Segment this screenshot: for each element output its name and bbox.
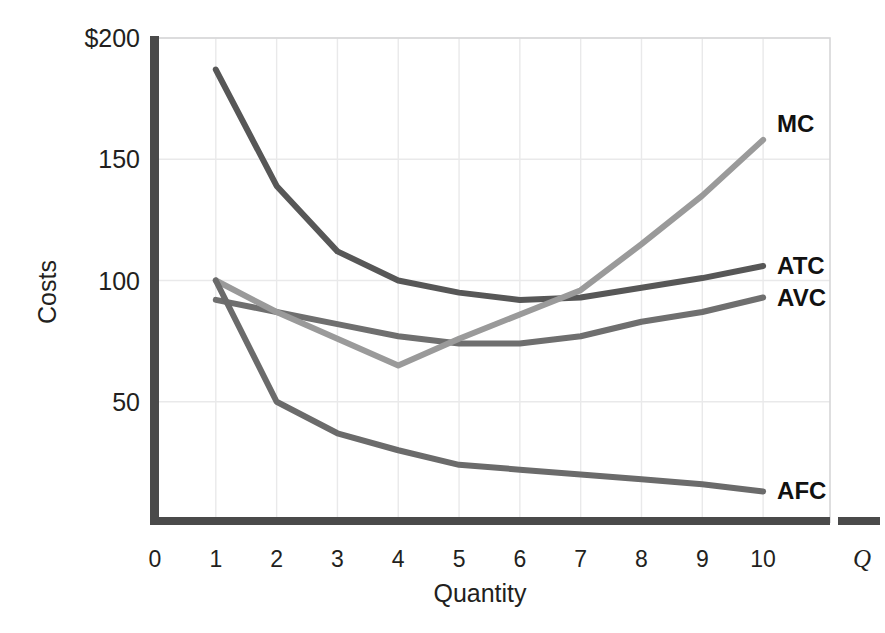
y-axis-title: Costs <box>33 260 61 324</box>
x-tick-label: 3 <box>331 546 344 572</box>
y-axis-bar <box>150 36 159 525</box>
x-tick-label: 8 <box>635 546 648 572</box>
series-label-atc: ATC <box>777 252 825 279</box>
y-tick-label: 100 <box>98 267 140 295</box>
x-axis-bar <box>150 517 830 525</box>
series-label-mc: MC <box>777 110 814 137</box>
x-axis-q-marker: Q <box>853 545 871 572</box>
series-label-avc: AVC <box>777 284 826 311</box>
x-tick-label: 2 <box>270 546 283 572</box>
y-tick-label: 50 <box>112 388 140 416</box>
x-tick-label: 1 <box>209 546 222 572</box>
x-tick-label: 6 <box>513 546 526 572</box>
y-tick-label: $200 <box>84 24 140 52</box>
series-label-afc: AFC <box>777 477 826 504</box>
x-tick-label: 4 <box>392 546 405 572</box>
x-tick-label: 10 <box>750 546 776 572</box>
x-axis-bar-extension <box>838 517 880 525</box>
x-axis-title: Quantity <box>433 579 527 607</box>
x-tick-label: 5 <box>453 546 466 572</box>
x-tick-label: 7 <box>574 546 587 572</box>
x-tick-label: 9 <box>696 546 709 572</box>
chart-canvas: 012345678910Q50100150$200QuantityCostsAT… <box>0 0 885 633</box>
cost-curves-chart: 012345678910Q50100150$200QuantityCostsAT… <box>0 0 885 633</box>
x-tick-label: 0 <box>149 546 162 572</box>
y-tick-label: 150 <box>98 145 140 173</box>
